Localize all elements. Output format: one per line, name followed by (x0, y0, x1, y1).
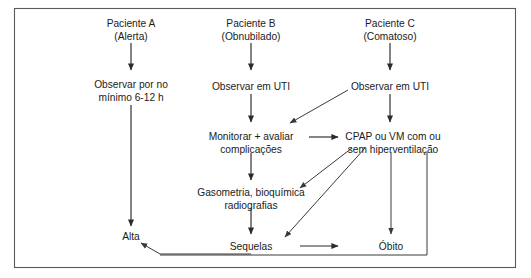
node-monitorar-line-1: Monitorar + avaliar (209, 131, 294, 142)
edge-cpap-to-gasometria (300, 148, 352, 188)
node-observar-6-12h: Observar por no mínimo 6-12 h (94, 79, 168, 103)
node-monitorar-line-2: complicações (220, 144, 282, 155)
node-paciente-b: Paciente B (Obnubilado) (222, 18, 281, 42)
node-cpap-vm: CPAP ou VM com ou sem hiperventilação (345, 131, 440, 155)
node-cpap-line-2: sem hiperventilação (348, 144, 439, 155)
node-monitorar-avaliar: Monitorar + avaliar complicações (209, 131, 294, 155)
node-paciente-b-line-2: (Obnubilado) (222, 31, 281, 42)
node-gasometria-line-1: Gasometria, bioquímica (197, 187, 305, 198)
node-gasometria: Gasometria, bioquímica radiografias (197, 187, 305, 211)
node-sequelas: Sequelas (230, 241, 272, 252)
node-paciente-c: Paciente C (Comatoso) (363, 18, 416, 42)
node-observar-uti-b: Observar em UTI (212, 81, 290, 92)
node-observar-6-12h-line-2: mínimo 6-12 h (98, 92, 163, 103)
edge-cpap-outer-return (160, 152, 427, 255)
node-observar-6-12h-line-1: Observar por no (94, 79, 168, 90)
edge-uti-c-to-monitorar (290, 90, 348, 123)
node-layer: Paciente A (Alerta) Paciente B (Obnubila… (94, 18, 440, 252)
node-alta: Alta (122, 231, 140, 242)
node-paciente-a-line-2: (Alerta) (114, 31, 147, 42)
patient-management-flowchart: Paciente A (Alerta) Paciente B (Obnubila… (0, 0, 531, 278)
node-observar-uti-c-line-1: Observar em UTI (351, 81, 429, 92)
node-observar-uti-b-line-1: Observar em UTI (212, 81, 290, 92)
node-paciente-a-line-1: Paciente A (107, 18, 156, 29)
node-obito-line-1: Óbito (379, 240, 404, 252)
node-gasometria-line-2: radiografias (224, 200, 277, 211)
node-observar-uti-c: Observar em UTI (351, 81, 429, 92)
node-paciente-a: Paciente A (Alerta) (107, 18, 156, 42)
node-cpap-line-1: CPAP ou VM com ou (345, 131, 440, 142)
node-paciente-c-line-2: (Comatoso) (363, 31, 416, 42)
node-sequelas-line-1: Sequelas (230, 241, 272, 252)
node-obito: Óbito (379, 240, 404, 252)
flowchart-canvas: Paciente A (Alerta) Paciente B (Obnubila… (0, 0, 531, 278)
node-alta-line-1: Alta (122, 231, 140, 242)
node-paciente-c-line-1: Paciente C (365, 18, 415, 29)
node-paciente-b-line-1: Paciente B (226, 18, 275, 29)
